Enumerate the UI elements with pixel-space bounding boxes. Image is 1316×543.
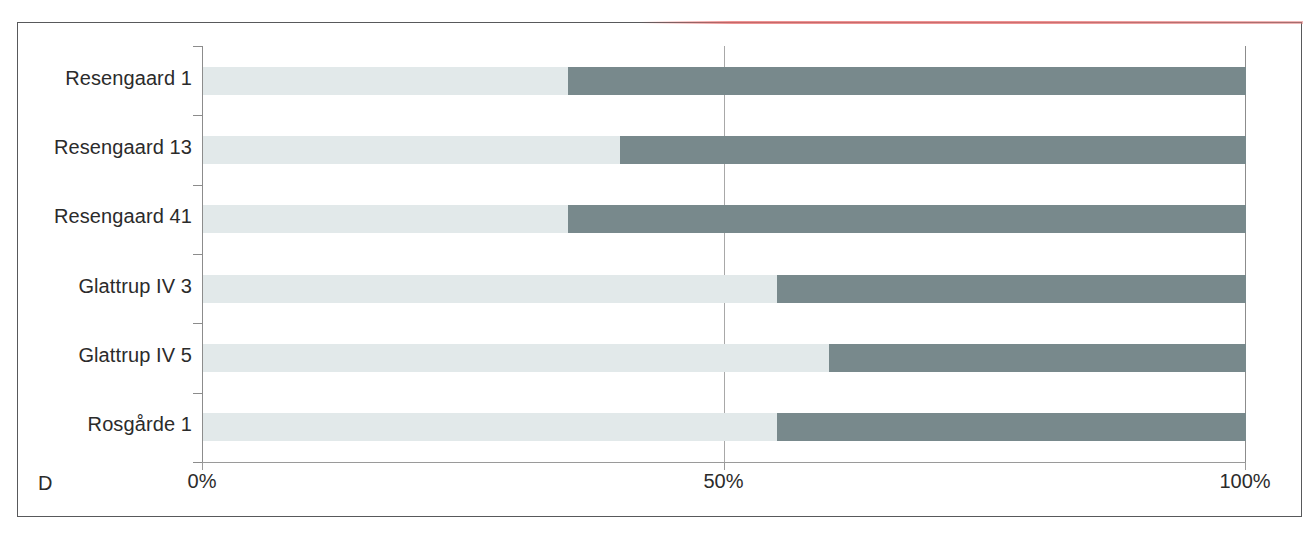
y-axis-labels: Resengaard 1Resengaard 13Resengaard 41Gl…: [0, 46, 192, 462]
y-axis-label: Glattrup IV 3: [78, 275, 192, 298]
y-axis-tick: [193, 185, 202, 186]
x-axis-tick-label: 0%: [188, 470, 217, 493]
figure-root: Resengaard 1Resengaard 13Resengaard 41Gl…: [0, 0, 1316, 543]
y-axis-label: Glattrup IV 5: [78, 344, 192, 367]
y-axis-label: Rosgårde 1: [88, 413, 192, 436]
x-axis-tick: [1245, 462, 1246, 470]
x-axis-tick-labels: 0%50%100%: [0, 470, 1316, 502]
y-axis-label: Resengaard 1: [65, 67, 192, 90]
y-axis-tick: [193, 254, 202, 255]
bar-segment-dark-segment: [568, 67, 1246, 95]
x-axis-tick: [202, 462, 203, 470]
bar-segment-light-segment: [203, 344, 829, 372]
x-axis-tick-label: 50%: [703, 470, 743, 493]
y-axis-label: Resengaard 13: [54, 136, 192, 159]
bar-segment-dark-segment: [568, 205, 1246, 233]
y-axis-line: [202, 46, 203, 462]
panel-letter: D: [38, 472, 52, 495]
bar-segment-dark-segment: [829, 344, 1246, 372]
y-axis-tick: [193, 393, 202, 394]
bar-segment-dark-segment: [777, 413, 1246, 441]
bar-segment-light-segment: [203, 136, 620, 164]
bar-segment-dark-segment: [777, 275, 1246, 303]
y-axis-tick: [193, 323, 202, 324]
y-axis-label: Resengaard 41: [54, 205, 192, 228]
plot-right-edge-line: [1245, 46, 1246, 462]
y-axis-tick: [193, 46, 202, 47]
plot-area: [202, 46, 1245, 462]
x-axis-tick: [724, 462, 725, 470]
x-axis-tick-label: 100%: [1219, 470, 1270, 493]
bar-segment-dark-segment: [620, 136, 1246, 164]
bar-segment-light-segment: [203, 67, 568, 95]
y-axis-tick: [193, 462, 202, 463]
bar-segment-light-segment: [203, 275, 777, 303]
y-axis-tick: [193, 115, 202, 116]
bar-segment-light-segment: [203, 413, 777, 441]
gridline: [724, 46, 725, 462]
bar-segment-light-segment: [203, 205, 568, 233]
